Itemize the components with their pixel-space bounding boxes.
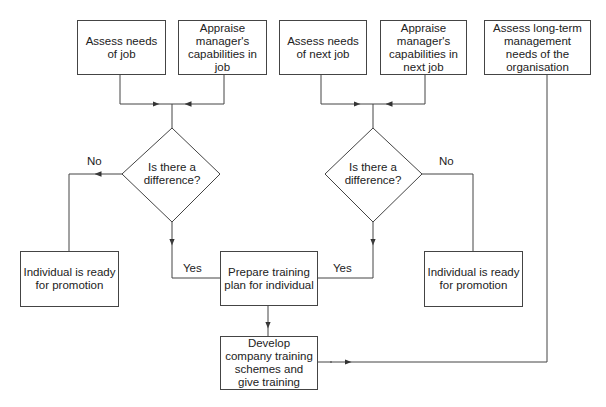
node-prepare-training-plan: Prepare training plan for individual: [220, 251, 318, 306]
decision-right: Is there a difference?: [337, 150, 409, 198]
node-label: Appraise manager's capabilities in next …: [383, 22, 464, 74]
edge-label-no-left: No: [87, 155, 102, 167]
node-ready-for-promotion-left: Individual is ready for promotion: [20, 251, 119, 307]
edge-label-yes-right: Yes: [333, 262, 352, 274]
node-label: Appraise manager's capabilities in job: [181, 22, 264, 74]
decision-left: Is there a difference?: [136, 150, 208, 198]
node-appraise-capabilities-next-job: Appraise manager's capabilities in next …: [380, 20, 467, 75]
node-assess-needs-of-next-job: Assess needs of next job: [279, 20, 367, 75]
node-label: Assess needs of next job: [282, 35, 364, 61]
edge-label-no-right: No: [439, 155, 454, 167]
node-label: Develop company training schemes and giv…: [223, 337, 315, 389]
node-label: Assess needs of job: [80, 35, 163, 61]
node-label: Individual is ready for promotion: [23, 266, 116, 292]
node-label: Prepare training plan for individual: [223, 266, 315, 292]
node-label: Assess long-term management needs of the…: [487, 22, 588, 74]
decision-label: Is there a difference?: [136, 161, 208, 187]
node-assess-needs-of-job: Assess needs of job: [77, 20, 166, 75]
edge-label-yes-left: Yes: [183, 262, 202, 274]
node-ready-for-promotion-right: Individual is ready for promotion: [424, 251, 523, 307]
node-label: Individual is ready for promotion: [427, 266, 520, 292]
node-develop-training-schemes: Develop company training schemes and giv…: [220, 336, 318, 390]
node-assess-long-term-needs: Assess long-term management needs of the…: [484, 20, 591, 75]
node-appraise-capabilities-in-job: Appraise manager's capabilities in job: [178, 20, 267, 75]
decision-label: Is there a difference?: [337, 161, 409, 187]
